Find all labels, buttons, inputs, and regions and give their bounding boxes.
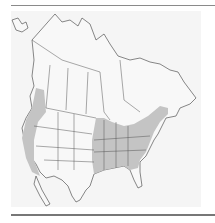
bottom-rule xyxy=(11,214,215,216)
range-map xyxy=(0,0,215,223)
